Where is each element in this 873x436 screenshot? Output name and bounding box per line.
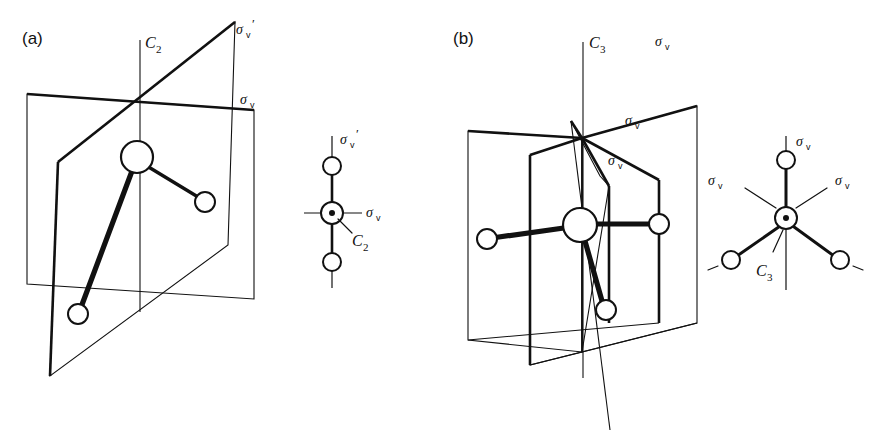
svg-text:C: C	[352, 232, 363, 249]
svg-text:v: v	[635, 121, 640, 131]
ligand-atom-lower-b	[596, 300, 616, 320]
inset-b-atom-lower-right	[831, 251, 849, 269]
svg-text:σ: σ	[340, 132, 348, 147]
sigma-v-label-b-2: σ v	[625, 113, 640, 131]
sigma-v-prime-label-a: σ v ′	[236, 16, 255, 40]
c3-axis-label-b: C 3	[589, 34, 606, 55]
inset-b-c3-leader	[773, 230, 783, 252]
svg-text:′: ′	[252, 16, 255, 31]
inset-a-center-dot	[329, 210, 335, 216]
svg-text:2: 2	[363, 241, 369, 253]
svg-text:v: v	[845, 181, 850, 191]
svg-text:v: v	[718, 181, 723, 191]
panel-a-label: (a)	[22, 29, 43, 48]
svg-text:3: 3	[767, 271, 773, 283]
plane-b-bottom-line-2	[530, 323, 697, 365]
panel-a: (a) C 2 σ	[22, 16, 381, 376]
svg-text:3: 3	[600, 43, 606, 55]
figure-root: (a) C 2 σ	[0, 0, 873, 436]
ligand-atom-left-b	[477, 229, 497, 249]
svg-text:σ: σ	[708, 173, 716, 188]
svg-text:σ: σ	[625, 113, 633, 128]
svg-text:σ: σ	[608, 153, 616, 168]
central-atom-a	[121, 141, 153, 173]
plane-b1-top-edge	[468, 131, 582, 138]
svg-text:2: 2	[156, 43, 162, 55]
sigma-v-label-b-1: σ v	[655, 34, 670, 52]
inset-b-bond-lower-left	[737, 224, 783, 256]
panel-b-label: (b)	[453, 29, 474, 48]
inset-a-c2-leader	[338, 219, 352, 233]
svg-text:v: v	[618, 161, 623, 171]
svg-text:v: v	[665, 42, 670, 52]
inset-b-dash-right	[853, 266, 863, 270]
svg-text:σ: σ	[655, 34, 663, 49]
svg-text:v: v	[250, 100, 255, 110]
inset-a-atom-bottom	[323, 253, 341, 271]
sigma-v-label-a: σ v	[240, 92, 255, 110]
inset-b-atom-lower-left	[722, 251, 740, 269]
svg-text:C: C	[756, 262, 767, 279]
inset-a-sigma-v-prime-label: σ v ′	[340, 126, 359, 150]
svg-text:σ: σ	[236, 22, 244, 37]
inset-b: σ v σ v σ v C 3	[708, 134, 863, 290]
inset-a: σ v ′ σ v C 2	[304, 126, 381, 288]
plane-b2-top-edge	[582, 106, 697, 138]
panel-b: (b)	[453, 29, 863, 430]
inset-a-c2-label: C 2	[352, 232, 369, 253]
inset-a-sigma-v-label: σ v	[366, 205, 381, 223]
c3-axis-slant-b	[571, 121, 610, 430]
inset-b-center-dot	[783, 215, 789, 221]
sigma-v-prime-plane-a-left-edge	[50, 162, 58, 376]
svg-text:C: C	[589, 34, 600, 51]
svg-text:σ: σ	[835, 173, 843, 188]
svg-text:σ: σ	[366, 205, 374, 220]
inset-b-sigma-right-leader	[796, 188, 827, 208]
inset-a-atom-top	[323, 157, 341, 175]
inset-b-sigma-v-top-label: σ v	[796, 134, 811, 152]
svg-text:v: v	[376, 213, 381, 223]
svg-text:σ: σ	[796, 134, 804, 149]
inset-b-sigma-v-right-label: σ v	[835, 173, 850, 191]
ligand-atom-lower-left-a	[68, 304, 88, 324]
svg-text:v: v	[350, 140, 355, 150]
svg-text:C: C	[145, 34, 156, 51]
c2-axis-label-a: C 2	[145, 34, 162, 55]
inset-b-atom-top	[777, 151, 795, 169]
inset-b-bond-lower-right	[790, 224, 834, 256]
central-atom-b	[563, 208, 597, 242]
svg-text:′: ′	[356, 126, 359, 141]
ligand-atom-right-a	[195, 192, 215, 212]
svg-text:σ: σ	[240, 92, 248, 107]
plane-b-bottom-line-1	[468, 323, 659, 340]
inset-b-sigma-left-leader	[745, 188, 776, 208]
inset-b-dash-left	[708, 266, 718, 270]
svg-text:v: v	[246, 30, 251, 40]
inset-b-sigma-v-left-label: σ v	[708, 173, 723, 191]
svg-text:v: v	[806, 142, 811, 152]
inset-b-c3-label: C 3	[756, 262, 773, 283]
bond-outline-lower-left-a	[80, 163, 135, 310]
symmetry-diagram-svg: (a) C 2 σ	[0, 0, 873, 436]
ligand-atom-right-b	[649, 214, 669, 234]
